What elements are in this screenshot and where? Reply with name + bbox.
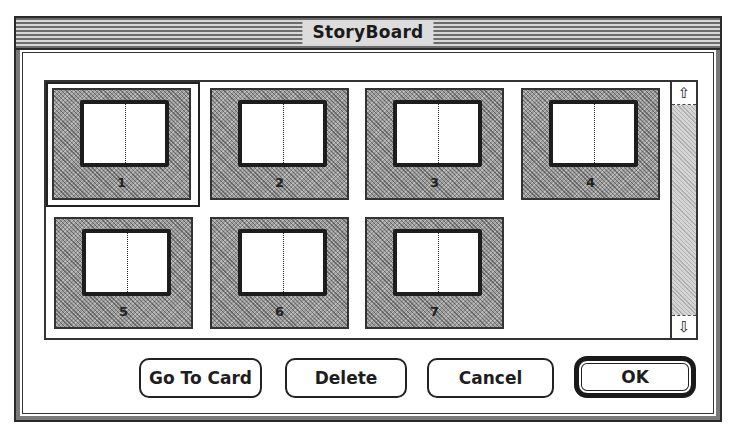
page-divider bbox=[125, 104, 126, 163]
page-divider bbox=[283, 104, 284, 163]
card-thumbnail-icon bbox=[238, 229, 327, 296]
scroll-down-arrow-icon[interactable]: ⇩ bbox=[672, 315, 696, 338]
card-5[interactable]: 5 bbox=[54, 217, 193, 329]
title-bar[interactable]: StoryBoard bbox=[16, 18, 720, 50]
card-2[interactable]: 2 bbox=[210, 88, 349, 200]
scroll-up-arrow-icon[interactable]: ⇧ bbox=[672, 82, 696, 105]
card-thumbnail-icon bbox=[549, 100, 638, 167]
storyboard-dialog: StoryBoard 1 2 bbox=[14, 16, 722, 422]
card-thumbnail-icon bbox=[82, 229, 171, 296]
page-divider bbox=[283, 233, 284, 292]
card-number: 2 bbox=[212, 175, 347, 190]
page-divider bbox=[438, 233, 439, 292]
card-thumbnail-icon bbox=[393, 229, 482, 296]
go-to-card-button[interactable]: Go To Card bbox=[139, 358, 262, 398]
card-thumbnail-icon bbox=[238, 100, 327, 167]
card-list-panel: 1 2 3 4 bbox=[44, 80, 698, 340]
card-thumbnail-icon bbox=[393, 100, 482, 167]
card-number: 7 bbox=[367, 304, 502, 319]
delete-button[interactable]: Delete bbox=[285, 358, 407, 398]
card-thumbnail-icon bbox=[80, 100, 169, 167]
card-number: 3 bbox=[367, 175, 502, 190]
window-title: StoryBoard bbox=[312, 22, 423, 42]
card-1[interactable]: 1 bbox=[52, 88, 191, 200]
vertical-scrollbar[interactable]: ⇧ ⇩ bbox=[670, 82, 696, 338]
screen: StoryBoard 1 2 bbox=[0, 0, 736, 436]
card-number: 6 bbox=[212, 304, 347, 319]
card-grid: 1 2 3 4 bbox=[46, 82, 670, 338]
card-number: 5 bbox=[56, 304, 191, 319]
page-divider bbox=[127, 233, 128, 292]
title-wrap: StoryBoard bbox=[302, 20, 433, 44]
card-7[interactable]: 7 bbox=[365, 217, 504, 329]
card-number: 4 bbox=[523, 175, 658, 190]
card-3[interactable]: 3 bbox=[365, 88, 504, 200]
ok-button[interactable]: OK bbox=[574, 356, 696, 398]
cancel-button[interactable]: Cancel bbox=[427, 358, 554, 398]
page-divider bbox=[438, 104, 439, 163]
card-4[interactable]: 4 bbox=[521, 88, 660, 200]
card-6[interactable]: 6 bbox=[210, 217, 349, 329]
card-number: 1 bbox=[54, 175, 189, 190]
page-divider bbox=[594, 104, 595, 163]
